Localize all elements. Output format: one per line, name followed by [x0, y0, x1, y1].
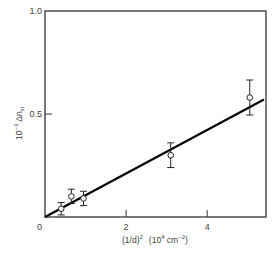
plot-border — [45, 11, 266, 217]
tick-labels: 0240.51.0 — [29, 6, 209, 232]
x-tick-label: 0 — [37, 222, 42, 232]
data-point — [167, 143, 174, 168]
plot-frame — [45, 11, 266, 217]
x-axis-label: (1/d)2(104 cm−2) — [122, 234, 188, 245]
open-circle-marker — [247, 95, 253, 101]
open-circle-marker — [81, 196, 87, 202]
x-tick-label: 2 — [124, 222, 129, 232]
data-point — [246, 80, 253, 115]
y-axis-label: 10−3 Δnst — [13, 106, 25, 140]
chart: 0240.51.0 (1/d)2(104 cm−2) 10−3 Δnst — [0, 0, 276, 253]
fit-line — [45, 100, 264, 217]
linear-fit-line — [45, 100, 264, 217]
open-circle-marker — [58, 206, 64, 212]
open-circle-marker — [69, 194, 75, 200]
open-circle-marker — [168, 152, 174, 158]
y-tick-label: 1.0 — [29, 6, 42, 16]
x-tick-label: 4 — [205, 222, 210, 232]
axis-ticks — [45, 114, 207, 217]
data-point — [80, 191, 87, 205]
data-point — [58, 203, 65, 215]
y-tick-label: 0.5 — [29, 109, 42, 119]
